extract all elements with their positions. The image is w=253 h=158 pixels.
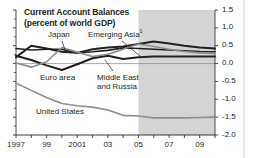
y-tick-label: -1.0 [222,94,236,103]
y-tick-label: 0.5 [222,40,233,49]
x-tick-label: 05 [122,140,154,149]
chart-subtitle: (percent of world GDP) [24,19,115,29]
x-tick-label: 03 [92,140,124,149]
y-tick-label: 1.5 [222,5,233,14]
x-tick-label: 99 [31,140,63,149]
y-tick-label: -1.5 [222,112,236,121]
series-label-united-states: United States [36,108,84,117]
y-tick-label: -2.0 [222,130,236,139]
y-tick-label: -0.5 [222,76,236,85]
x-tick-label: 1997 [0,140,32,149]
series-label-emerging-asia: Emerging Asia1 [88,31,143,40]
series-label-middle-east-line1: Middle East [97,73,139,82]
series-label-euro-area: Euro area [40,74,75,83]
projection-shaded-region [138,10,215,135]
series-label-emerging-asia-text: Emerging Asia [88,30,140,39]
y-tick-label: 1.0 [222,22,233,31]
footnote-marker-1: 1 [140,28,143,34]
x-tick-label: 07 [153,140,185,149]
x-tick-label: 2001 [61,140,93,149]
chart-figure: Current Account Balances (percent of wor… [0,0,253,158]
y-tick-label: 0.0 [222,58,233,67]
series-label-middle-east-line2: and Russia [97,83,139,92]
chart-title: Current Account Balances [24,8,129,18]
series-label-japan: Japan [48,31,70,40]
x-tick-label: 09 [184,140,216,149]
series-label-middle-east: Middle Eastand Russia [97,74,139,92]
